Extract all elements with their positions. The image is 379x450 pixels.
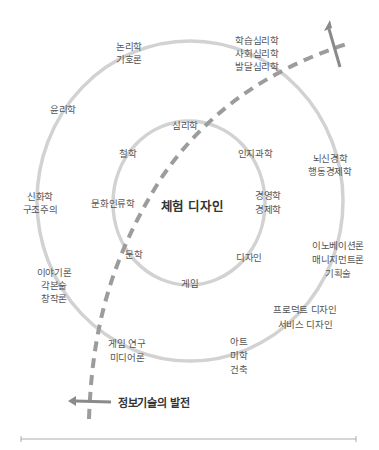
label-text: 행동경제학	[308, 165, 352, 178]
label-text: 미학	[230, 349, 247, 363]
label-text: 사회심리학	[235, 47, 279, 60]
label-text: 논리학	[116, 40, 142, 53]
top-right-arrow-icon	[324, 20, 340, 67]
inner-label-cognitive-science: 인지과학	[238, 145, 273, 162]
label-text: 뇌신경학	[308, 152, 352, 165]
center-label: 체험 디자인	[161, 196, 224, 215]
label-text: 아트	[230, 335, 247, 349]
it-development-label: 정보기술의 발전	[118, 394, 189, 410]
label-text: 학습심리학	[235, 34, 279, 47]
inner-label-cultural-anthropology: 문화인류학	[91, 195, 135, 212]
outer-label-psychology-branches: 학습심리학 사회심리학 발달심리학	[235, 34, 279, 73]
label-text: 발달심리학	[235, 60, 279, 73]
label-text: 인지과학	[238, 145, 273, 162]
label-text: 미디어론	[108, 351, 146, 365]
label-text: 경제학	[255, 203, 281, 217]
outer-label-logic-semiotics: 논리학 기호론	[116, 40, 142, 66]
label-text: 신화학	[23, 190, 58, 203]
label-text: 윤리학	[50, 101, 76, 118]
label-text: 이노베이션론	[312, 239, 364, 253]
outer-label-innovation-management: 이노베이션론 매니지먼트론 기획술	[312, 239, 364, 281]
outer-label-art-aesthetics-architecture: 아트 미학 건축	[230, 335, 247, 377]
outer-label-narrative-theory: 이야기론 각본술 창작론	[37, 266, 72, 305]
label-text: 경영학	[255, 189, 281, 203]
outer-label-mythology-structuralism: 신화학 구조주의	[23, 190, 58, 216]
label-text: 기호론	[116, 53, 142, 66]
diagram-graphics	[0, 0, 379, 450]
label-text: 철학	[119, 145, 136, 162]
inner-label-business-economics: 경영학 경제학	[255, 189, 281, 217]
label-text: 매니지먼트론	[312, 253, 364, 267]
label-text: 기획술	[312, 267, 364, 281]
outer-label-neuroeconomics: 뇌신경학 행동경제학	[308, 152, 352, 178]
label-text: 문화인류학	[91, 195, 135, 212]
label-text: 각본술	[37, 279, 72, 292]
label-text: 프로덕트 디자인	[273, 302, 337, 317]
inner-label-psychology: 심리학	[172, 117, 198, 134]
label-text: 디자인	[236, 249, 262, 266]
experience-design-diagram: 체험 디자인 심리학 철학 인지과학 문화인류학 경영학 경제학 문학 디자인 …	[0, 0, 379, 450]
inner-label-literature: 문학	[125, 246, 142, 263]
outer-label-game-studies-media: 게임 연구 미디어론	[108, 337, 146, 365]
outer-label-ethics: 윤리학	[50, 101, 76, 118]
inner-label-design: 디자인	[236, 249, 262, 266]
label-text: 게임 연구	[108, 337, 146, 351]
label-text: 이야기론	[37, 266, 72, 279]
label-text: 서비스 디자인	[273, 317, 337, 332]
bottom-axis-line	[21, 436, 356, 442]
label-text: 문학	[125, 246, 142, 263]
inner-label-game: 게임	[181, 275, 198, 292]
label-text: 건축	[230, 363, 247, 377]
outer-label-product-service-design: 프로덕트 디자인 서비스 디자인	[273, 302, 337, 332]
label-text: 구조주의	[23, 203, 58, 216]
label-text: 심리학	[172, 117, 198, 134]
label-text: 창작론	[37, 292, 72, 305]
label-text: 게임	[181, 275, 198, 292]
inner-label-philosophy: 철학	[119, 145, 136, 162]
